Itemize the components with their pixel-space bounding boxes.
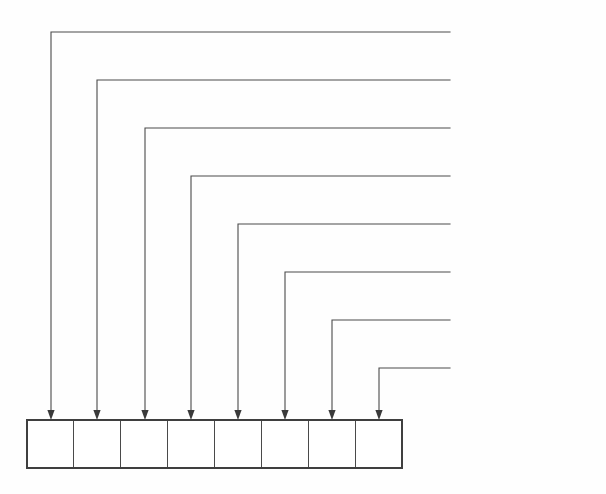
connector-arrowhead bbox=[93, 410, 100, 420]
connector-line bbox=[238, 224, 450, 410]
bit-cell-2[interactable] bbox=[121, 420, 168, 468]
connector-line bbox=[332, 320, 450, 410]
bit-cell-rect[interactable] bbox=[261, 420, 308, 468]
connector-line bbox=[97, 80, 450, 410]
callout-volume-label-4 bbox=[234, 224, 450, 420]
bit-cell-rect[interactable] bbox=[121, 420, 168, 468]
callout-subdirectory-3 bbox=[187, 176, 450, 420]
connector-arrowhead bbox=[328, 410, 335, 420]
attribute-byte-diagram bbox=[0, 0, 606, 494]
bit-cell-4[interactable] bbox=[215, 420, 262, 468]
connector-arrowhead bbox=[281, 410, 288, 420]
bit-cell-1[interactable] bbox=[74, 420, 121, 468]
connector-arrowhead bbox=[187, 410, 194, 420]
connector-line bbox=[285, 272, 450, 410]
callout-hidden-file-6 bbox=[328, 320, 450, 420]
connector-arrowhead bbox=[47, 410, 54, 420]
diagram-page bbox=[0, 0, 606, 494]
callout-archive-bit-2 bbox=[141, 128, 450, 420]
bit-cell-6[interactable] bbox=[308, 420, 355, 468]
bit-cell-3[interactable] bbox=[168, 420, 215, 468]
connector-arrowhead bbox=[141, 410, 148, 420]
bit-cell-5[interactable] bbox=[261, 420, 308, 468]
bit-cell-rect[interactable] bbox=[215, 420, 262, 468]
bit-cell-7[interactable] bbox=[355, 420, 402, 468]
callout-connectors bbox=[47, 32, 450, 420]
bit-cell-0[interactable] bbox=[27, 420, 74, 468]
bit-cell-rect[interactable] bbox=[27, 420, 74, 468]
connector-arrowhead bbox=[234, 410, 241, 420]
callout-read-only-file-7 bbox=[375, 368, 450, 420]
bit-cell-rect[interactable] bbox=[308, 420, 355, 468]
connector-line bbox=[191, 176, 450, 410]
attribute-byte-box bbox=[27, 420, 402, 468]
bit-cell-rect[interactable] bbox=[355, 420, 402, 468]
bit-cell-rect[interactable] bbox=[168, 420, 215, 468]
connector-arrowhead bbox=[375, 410, 382, 420]
bit-cell-rect[interactable] bbox=[74, 420, 121, 468]
connector-line bbox=[51, 32, 450, 410]
callout-reserved-0-0 bbox=[47, 32, 450, 420]
connector-line bbox=[379, 368, 450, 410]
callout-reserved-0-1 bbox=[93, 80, 450, 420]
callout-system-file-5 bbox=[281, 272, 450, 420]
